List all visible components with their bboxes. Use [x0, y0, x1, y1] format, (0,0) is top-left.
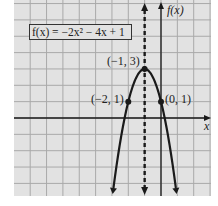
point-label-right: (0, 1) [165, 93, 191, 105]
equation-label: f(x) = −2x² − 4x + 1 [29, 24, 132, 40]
y-axis-label: f(x) [167, 4, 184, 16]
x-axis-label: x [204, 120, 209, 132]
point-label-left: (−2, 1) [91, 93, 124, 105]
point-label-vertex: (−1, 3) [107, 55, 140, 67]
